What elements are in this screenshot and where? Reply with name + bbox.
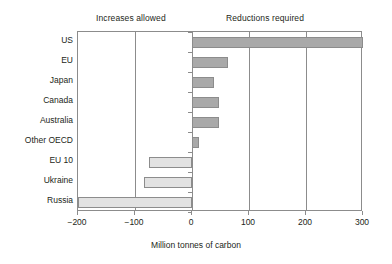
y-label-other-oecd: Other OECD [1, 135, 73, 145]
y-label-canada: Canada [1, 95, 73, 105]
y-tick-mark [188, 152, 192, 153]
y-label-australia: Australia [1, 115, 73, 125]
gridline--100 [135, 32, 136, 210]
x-axis: −200−1000100200300 [0, 211, 392, 241]
annotation-reductions-required: Reductions required [226, 13, 304, 23]
gridline-200 [306, 32, 307, 210]
y-label-eu: EU [1, 55, 73, 65]
bar-canada [192, 97, 219, 108]
carbon-emissions-bar-chart: Increases allowed Reductions required US… [0, 0, 392, 264]
x-tick-mark-100 [248, 211, 249, 215]
y-label-ukraine: Ukraine [1, 175, 73, 185]
x-tick-label-200: 200 [298, 217, 312, 227]
x-tick-mark-200 [305, 211, 306, 215]
x-tick-label--100: −100 [124, 217, 143, 227]
gridline-100 [249, 32, 250, 210]
plot-area [77, 31, 362, 211]
bar-ukraine [144, 177, 192, 188]
y-label-russia: Russia [1, 195, 73, 205]
y-tick-mark [188, 172, 192, 173]
x-axis-label: Million tonnes of carbon [0, 240, 392, 250]
y-tick-mark [188, 92, 192, 93]
x-tick-mark--100 [134, 211, 135, 215]
x-tick-label-0: 0 [189, 217, 194, 227]
x-tick-label--200: −200 [67, 217, 86, 227]
bar-eu [192, 57, 228, 68]
y-tick-mark [188, 132, 192, 133]
y-tick-mark [188, 112, 192, 113]
y-tick-mark [188, 192, 192, 193]
x-tick-mark-300 [362, 211, 363, 215]
x-tick-label-100: 100 [241, 217, 255, 227]
y-tick-mark [188, 72, 192, 73]
annotation-increases-allowed: Increases allowed [96, 13, 166, 23]
x-tick-mark--200 [77, 211, 78, 215]
y-tick-mark [188, 32, 192, 33]
y-label-eu-10: EU 10 [1, 155, 73, 165]
y-label-us: US [1, 35, 73, 45]
bar-us [192, 37, 363, 48]
bar-other-oecd [192, 137, 199, 148]
y-axis-category-labels: USEUJapanCanadaAustraliaOther OECDEU 10U… [0, 31, 73, 211]
y-tick-mark [188, 52, 192, 53]
x-tick-label-300: 300 [355, 217, 369, 227]
bar-eu-10 [149, 157, 192, 168]
bar-russia [78, 197, 192, 208]
y-label-japan: Japan [1, 75, 73, 85]
bar-australia [192, 117, 219, 128]
bar-japan [192, 77, 214, 88]
x-tick-mark-0 [191, 211, 192, 215]
